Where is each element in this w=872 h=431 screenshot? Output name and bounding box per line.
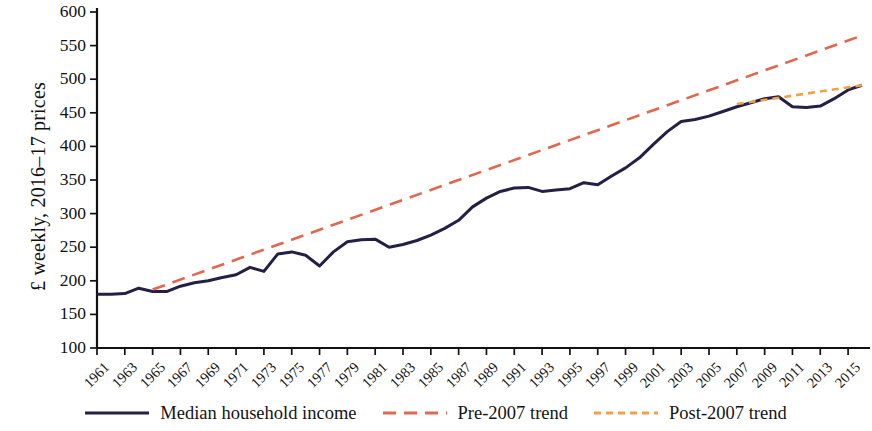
legend-item: Pre-2007 trend <box>383 403 568 424</box>
legend-swatch-dashed <box>383 407 447 419</box>
x-axis-tick-label: 1975 <box>272 359 308 395</box>
x-axis-tick-label: 1973 <box>244 359 280 395</box>
x-axis-tick-label: 1993 <box>522 359 558 395</box>
x-axis-tick-label: 1997 <box>578 359 614 395</box>
legend-item: Post-2007 trend <box>594 403 787 424</box>
x-axis-tick-label: 1963 <box>105 359 141 395</box>
x-axis-tick-label: 1991 <box>494 359 530 395</box>
x-axis-tick-label: 1971 <box>216 359 252 395</box>
x-axis-tick-label: 2007 <box>717 359 753 395</box>
x-axis-tick-label: 1999 <box>605 359 641 395</box>
x-axis-tick-label: 2009 <box>745 359 781 395</box>
x-axis-tick-label: 1977 <box>299 359 335 395</box>
chart-legend: Median household incomePre-2007 trendPos… <box>0 398 872 428</box>
x-axis-tick-labels: 1961196319651967196919711973197519771979… <box>0 0 872 431</box>
x-axis-tick-label: 1983 <box>383 359 419 395</box>
legend-swatch-solid <box>85 407 149 419</box>
legend-label: Median household income <box>160 403 356 424</box>
income-trend-chart: £ weekly, 2016–17 prices 100150200250300… <box>0 0 872 431</box>
legend-swatch-dotted <box>594 407 658 419</box>
x-axis-tick-label: 2001 <box>633 359 669 395</box>
x-axis-tick-label: 1995 <box>550 359 586 395</box>
x-axis-tick-label: 1969 <box>188 359 224 395</box>
legend-label: Pre-2007 trend <box>458 403 568 424</box>
x-axis-tick-label: 1985 <box>411 359 447 395</box>
x-axis-tick-label: 2013 <box>800 359 836 395</box>
legend-label: Post-2007 trend <box>669 403 787 424</box>
x-axis-tick-label: 1987 <box>439 359 475 395</box>
x-axis-tick-label: 1979 <box>327 359 363 395</box>
legend-item: Median household income <box>85 403 356 424</box>
x-axis-tick-label: 1961 <box>77 359 113 395</box>
x-axis-tick-label: 1989 <box>466 359 502 395</box>
x-axis-tick-label: 2005 <box>689 359 725 395</box>
x-axis-tick-label: 2015 <box>828 359 864 395</box>
x-axis-tick-label: 2003 <box>661 359 697 395</box>
x-axis-tick-label: 1967 <box>160 359 196 395</box>
x-axis-tick-label: 1981 <box>355 359 391 395</box>
x-axis-tick-label: 1965 <box>133 359 169 395</box>
x-axis-tick-label: 2011 <box>772 359 808 395</box>
